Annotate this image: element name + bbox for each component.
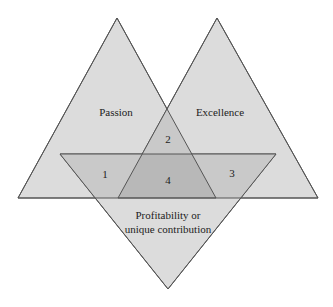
region-3-label: 3 (229, 167, 235, 179)
excellence-label: Excellence (196, 106, 244, 118)
region-1-label: 1 (102, 168, 108, 180)
region-4-label: 4 (165, 174, 171, 186)
passion-label: Passion (99, 106, 133, 118)
profitability-label-line2: unique contribution (125, 223, 212, 235)
profitability-label-line1: Profitability or (135, 209, 200, 221)
venn-diagram: Passion Excellence Profitability or uniq… (0, 0, 333, 307)
region-2-label: 2 (165, 133, 171, 145)
